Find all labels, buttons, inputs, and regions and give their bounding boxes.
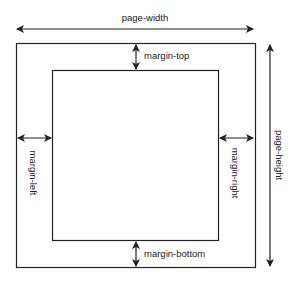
content-rect: [53, 71, 219, 241]
margin-left-label: margin-left: [28, 151, 39, 196]
page-height-label: page-height: [274, 130, 285, 181]
page-margins-diagram: page-width page-height margin-top margin…: [0, 0, 295, 281]
margin-bottom-label: margin-bottom: [144, 248, 205, 259]
margin-top-label: margin-top: [144, 50, 189, 61]
margin-right-label: margin-right: [230, 148, 241, 199]
page-width-label: page-width: [122, 12, 168, 23]
